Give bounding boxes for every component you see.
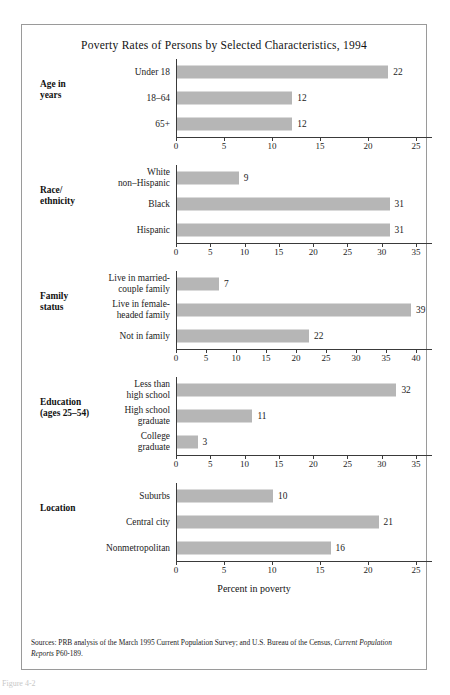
chart-bar-track: 39 [176, 297, 416, 323]
x-axis-tick-label: 25 [412, 141, 421, 151]
chart-bar [177, 278, 219, 291]
x-axis-tick-label: 15 [274, 459, 283, 469]
x-axis-title: Percent in poverty [82, 583, 426, 594]
chart-bar [177, 384, 396, 397]
chart-category-label: Nonmetropolitan [32, 543, 176, 554]
x-axis-tick-label: 20 [309, 247, 318, 257]
chart-bar-track: 31 [176, 191, 416, 217]
chart-group-rows: Suburbs10Central city21Nonmetropolitan16 [32, 483, 416, 561]
chart-bar [177, 490, 273, 503]
chart-group: Age in yearsUnder 182218–641265+12051015… [32, 59, 416, 153]
x-axis-line [176, 243, 432, 244]
chart-bar-row: Hispanic31 [32, 217, 416, 243]
chart-bar-row: High school graduate11 [32, 403, 416, 429]
chart-bar-track: 22 [176, 59, 416, 85]
x-axis-tick-label: 20 [364, 565, 373, 575]
x-axis-tick-label: 35 [382, 353, 391, 363]
chart-category-label: Suburbs [32, 491, 176, 502]
chart-bar-value: 39 [416, 305, 425, 315]
chart-bar-row: Suburbs10 [32, 483, 416, 509]
chart-bar [177, 330, 309, 343]
x-axis-tick-label: 35 [412, 247, 421, 257]
chart-category-label: Central city [32, 517, 176, 528]
figure-frame: Poverty Rates of Persons by Selected Cha… [21, 24, 427, 670]
sources-prefix: Sources: PRB analysis of the March 1995 … [31, 638, 334, 647]
chart-bar-row: Live in married- couple family7 [32, 271, 416, 297]
chart-group: Race/ ethnicityWhite non–Hispanic9Black3… [32, 165, 416, 259]
x-axis-tick-label: 25 [343, 247, 352, 257]
chart-bar-value: 16 [336, 543, 345, 553]
x-axis-tick-label: 25 [412, 565, 421, 575]
chart-bar-track: 16 [176, 535, 416, 561]
x-axis-tick-label: 0 [174, 459, 179, 469]
x-axis-tick-label: 20 [292, 353, 301, 363]
chart-bar [177, 516, 379, 529]
sources-note: Sources: PRB analysis of the March 1995 … [31, 638, 416, 659]
x-axis-tick-label: 10 [268, 565, 277, 575]
x-axis-line [176, 349, 432, 350]
x-axis-tick-label: 0 [174, 247, 179, 257]
chart-bar-track: 32 [176, 377, 416, 403]
chart-bar-value: 10 [278, 491, 287, 501]
chart-bar-value: 11 [257, 411, 266, 421]
chart-bar-row: Black31 [32, 191, 416, 217]
x-axis-tick-label: 25 [322, 353, 331, 363]
chart-bar-value: 9 [244, 173, 249, 183]
x-axis-line [176, 455, 432, 456]
chart-bar-value: 31 [395, 225, 404, 235]
chart-bar [177, 118, 292, 131]
chart-bar [177, 66, 388, 79]
chart-bar [177, 224, 390, 237]
chart-x-axis: 05101520253035 [176, 455, 416, 471]
chart-group: Family statusLive in married- couple fam… [32, 271, 416, 365]
chart-category-label: High school graduate [32, 405, 176, 426]
chart-bar-track: 3 [176, 429, 416, 455]
chart-group-rows: White non–Hispanic9Black31Hispanic31 [32, 165, 416, 243]
x-axis-tick-label: 5 [222, 141, 227, 151]
x-axis-tick-label: 15 [262, 353, 271, 363]
chart-bar-row: Under 1822 [32, 59, 416, 85]
chart-bar-row: Nonmetropolitan16 [32, 535, 416, 561]
x-axis-tick-label: 30 [377, 459, 386, 469]
x-axis-tick-label: 30 [352, 353, 361, 363]
chart-category-label: Not in family [32, 331, 176, 342]
chart-bar-row: 18–6412 [32, 85, 416, 111]
chart-bar [177, 172, 239, 185]
chart-bar-value: 31 [395, 199, 404, 209]
chart-x-axis: 0510152025 [176, 137, 416, 153]
x-axis-tick-label: 0 [174, 565, 179, 575]
chart-bar-row: White non–Hispanic9 [32, 165, 416, 191]
x-axis-tick-label: 5 [208, 459, 213, 469]
chart-group: LocationSuburbs10Central city21Nonmetrop… [32, 483, 416, 577]
chart-group: Education (ages 25–54)Less than high sch… [32, 377, 416, 471]
figure-caption: Figure 4-2 [2, 679, 36, 688]
chart-category-label: White non–Hispanic [32, 167, 176, 188]
chart-category-label: Under 18 [32, 67, 176, 78]
x-axis-line [176, 137, 432, 138]
chart-bar-track: 12 [176, 111, 416, 137]
chart-groups-container: Age in yearsUnder 182218–641265+12051015… [22, 59, 426, 577]
chart-bar-value: 21 [384, 517, 393, 527]
chart-category-label: College graduate [32, 431, 176, 452]
x-axis-tick-label: 0 [174, 141, 179, 151]
chart-category-label: Black [32, 199, 176, 210]
chart-bar-value: 22 [314, 331, 323, 341]
chart-x-axis: 0510152025303540 [176, 349, 416, 365]
chart-category-label: 65+ [32, 119, 176, 130]
x-axis-tick-label: 20 [309, 459, 318, 469]
chart-bar [177, 304, 411, 317]
x-axis-tick-label: 15 [274, 247, 283, 257]
chart-bar-track: 11 [176, 403, 416, 429]
chart-bar-row: College graduate3 [32, 429, 416, 455]
x-axis-tick-label: 5 [204, 353, 209, 363]
chart-bar-track: 12 [176, 85, 416, 111]
chart-category-label: Live in married- couple family [32, 273, 176, 294]
chart-group-rows: Under 182218–641265+12 [32, 59, 416, 137]
chart-category-label: 18–64 [32, 93, 176, 104]
chart-bar-track: 9 [176, 165, 416, 191]
chart-bar-value: 12 [297, 93, 306, 103]
chart-bar-track: 10 [176, 483, 416, 509]
x-axis-line [176, 561, 432, 562]
x-axis-tick-label: 25 [343, 459, 352, 469]
chart-bar [177, 542, 331, 555]
